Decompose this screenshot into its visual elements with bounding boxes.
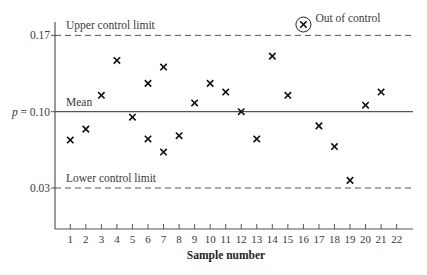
data-point-x-marker: [223, 89, 229, 95]
x-tick-label: 11: [220, 233, 231, 245]
data-point-x-marker: [176, 132, 182, 138]
data-point-x-marker: [362, 102, 368, 108]
x-tick-label: 7: [161, 233, 167, 245]
x-tick-label: 6: [145, 233, 151, 245]
x-tick-label: 2: [83, 233, 89, 245]
lower-control-limit-label: Lower control limit: [66, 172, 157, 184]
y-tick-labels: 0.17p = 0.100.03: [11, 29, 55, 194]
data-point-x-marker: [316, 123, 322, 129]
data-point-x-marker: [347, 177, 353, 183]
x-tick-label: 10: [205, 233, 217, 245]
x-tick-label: 14: [267, 233, 279, 245]
data-point-x-marker: [145, 136, 151, 142]
out-of-control-point: [296, 17, 311, 32]
data-point-x-marker: [378, 89, 384, 95]
data-point-x-marker: [160, 64, 166, 70]
data-point-x-marker: [67, 137, 73, 143]
x-tick-label: 12: [236, 233, 247, 245]
x-tick-label: 22: [391, 233, 402, 245]
x-tick-label: 15: [282, 233, 294, 245]
x-tick-label: 1: [68, 233, 74, 245]
data-point-x-marker: [160, 149, 166, 155]
x-tick-label: 16: [298, 233, 310, 245]
data-point-x-marker: [114, 57, 120, 63]
data-point-x-marker: [129, 114, 135, 120]
x-tick-label: 20: [360, 233, 372, 245]
data-point-x-marker: [98, 92, 104, 98]
out-of-control-label: Out of control: [315, 12, 380, 24]
data-point-x-marker: [83, 126, 89, 132]
y-tick-label: 0.03: [30, 182, 50, 194]
x-tick-label: 4: [114, 233, 120, 245]
x-tick-label: 5: [130, 233, 136, 245]
upper-control-limit-label: Upper control limit: [66, 19, 156, 32]
x-tick-label: 9: [192, 233, 198, 245]
x-tick-label: 3: [99, 233, 105, 245]
x-tick-label: 21: [376, 233, 387, 245]
data-point-x-marker: [207, 80, 213, 86]
x-tick-label: 13: [251, 233, 263, 245]
data-point-x-marker: [331, 143, 337, 149]
data-point-x-marker: [254, 136, 260, 142]
x-tick-label: 19: [345, 233, 357, 245]
data-point-x-marker: [145, 80, 151, 86]
axes: [55, 22, 413, 229]
y-tick-label: 0.17: [30, 29, 50, 41]
data-point-x-marker: [191, 100, 197, 106]
x-tick-label: 18: [329, 233, 341, 245]
x-axis-title: Sample number: [187, 249, 265, 262]
control-chart: Upper control limit Mean Lower control l…: [0, 0, 427, 275]
x-tick-label: 17: [313, 233, 325, 245]
x-tick-label: 8: [176, 233, 182, 245]
data-point-x-marker: [269, 53, 275, 59]
data-points: [67, 17, 384, 184]
reference-lines: Upper control limit Mean Lower control l…: [55, 19, 413, 188]
x-ticks: 12345678910111213141516171819202122: [68, 224, 403, 245]
mean-label: Mean: [66, 96, 92, 108]
data-point-x-marker: [285, 92, 291, 98]
y-tick-label: p = 0.10: [11, 106, 50, 119]
